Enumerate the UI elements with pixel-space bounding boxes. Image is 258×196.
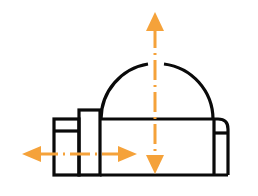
- vertical-arrow-icon: [146, 12, 164, 174]
- dome-icon: [101, 64, 148, 119]
- right-cap: [214, 119, 228, 175]
- diagram-canvas: [0, 0, 258, 196]
- building-icon: [0, 0, 258, 196]
- tower-block: [79, 110, 100, 175]
- left-annex: [54, 119, 79, 175]
- dome-right-arc: [164, 64, 213, 119]
